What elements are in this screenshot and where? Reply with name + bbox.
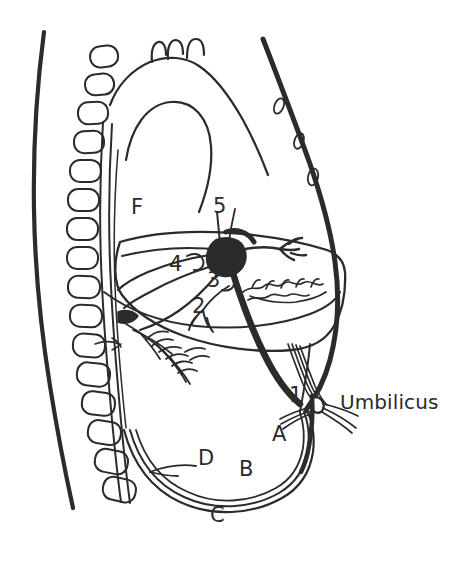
fetal-circulation-diagram: F 5 4 3 2 1 A D B C Umbilicus xyxy=(0,0,474,562)
label-umbilicus: Umbilicus xyxy=(340,392,438,412)
label-d: D xyxy=(198,448,214,469)
label-2: 2 xyxy=(192,296,205,317)
label-1: 1 xyxy=(289,385,302,406)
label-a: A xyxy=(272,424,286,445)
label-5: 5 xyxy=(213,196,226,217)
label-c: C xyxy=(210,505,225,526)
label-4: 4 xyxy=(169,254,182,275)
label-b: B xyxy=(239,459,253,480)
label-3: 3 xyxy=(207,270,220,291)
anatomy-illustration xyxy=(0,0,474,562)
label-f: F xyxy=(131,197,143,218)
